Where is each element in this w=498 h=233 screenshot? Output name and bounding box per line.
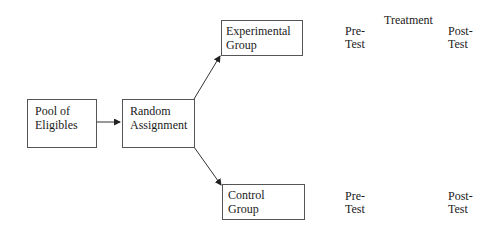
pool-of-eligibles-box: Pool of Eligibles	[27, 99, 97, 148]
control-group-box: Control Group	[222, 184, 305, 220]
exp-pretest-line2: Test	[345, 38, 365, 51]
arrow-random-to-control	[194, 147, 221, 185]
control-pretest-label: Pre- Test	[345, 190, 365, 216]
experimental-label-line2: Group	[226, 38, 298, 52]
pool-label-line1: Pool of	[35, 104, 89, 118]
control-label-line2: Group	[228, 202, 299, 216]
exp-posttest-line2: Test	[448, 38, 473, 51]
ctl-posttest-line2: Test	[448, 203, 473, 216]
random-label-line1: Random	[130, 104, 187, 118]
control-label-line1: Control	[228, 188, 299, 202]
treatment-label: Treatment	[384, 14, 433, 27]
experimental-group-box: Experimental Group	[221, 20, 303, 56]
experimental-label-line1: Experimental	[226, 24, 298, 38]
ctl-pretest-line2: Test	[345, 203, 365, 216]
pool-label-line2: Eligibles	[35, 118, 89, 132]
arrow-random-to-experimental	[194, 56, 220, 99]
random-label-line2: Assignment	[130, 118, 187, 132]
experimental-posttest-label: Post- Test	[448, 25, 473, 51]
experimental-pretest-label: Pre- Test	[345, 25, 365, 51]
control-posttest-label: Post- Test	[448, 190, 473, 216]
random-assignment-box: Random Assignment	[122, 99, 195, 148]
